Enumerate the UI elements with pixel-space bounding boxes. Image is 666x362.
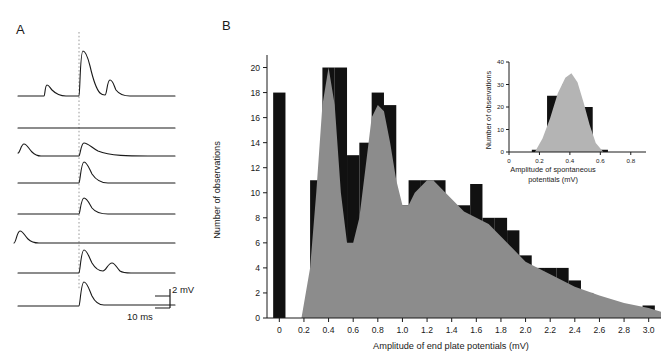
inset-x-tick-label: 0 — [507, 157, 511, 164]
trace-row-8 — [18, 282, 175, 306]
inset-y-tick-label: 30 — [497, 81, 504, 88]
x-tick-label: 2.2 — [544, 325, 556, 335]
x-tick-label: 1.2 — [421, 325, 433, 335]
x-tick-label: 0.8 — [372, 325, 384, 335]
trace-row-5 — [18, 198, 175, 214]
y-tick-label: 18 — [250, 88, 260, 98]
y-tick-label: 10 — [250, 188, 260, 198]
y-tick-label: 6 — [255, 238, 260, 248]
x-tick-label: 2.6 — [593, 325, 605, 335]
y-tick-label: 2 — [255, 288, 260, 298]
main-xaxis-label: Amplitude of end plate potentials (mV) — [373, 341, 529, 351]
inset-x-tick-label: 0.8 — [626, 157, 635, 164]
inset-y-tick-label: 0 — [501, 148, 505, 155]
inset-y-tick-label: 20 — [497, 103, 504, 110]
histogram-bar — [273, 93, 285, 318]
trace-row-1 — [18, 51, 175, 96]
x-tick-label: 3.0 — [643, 325, 655, 335]
scale-bar-voltage-label: 2 mV — [172, 284, 195, 295]
x-tick-label: 1.0 — [396, 325, 408, 335]
x-tick-label: 2.0 — [520, 325, 532, 335]
trace-row-4 — [18, 162, 175, 183]
x-tick-label: 0.6 — [347, 325, 359, 335]
y-tick-label: 12 — [250, 163, 260, 173]
y-tick-label: 4 — [255, 263, 260, 273]
x-tick-label: 1.8 — [495, 325, 507, 335]
trace-row-3 — [18, 143, 175, 156]
panel-a-traces: 2 mV 10 ms — [0, 18, 210, 348]
trace-row-7 — [18, 250, 175, 273]
y-tick-label: 0 — [255, 313, 260, 323]
main-yaxis-label: Number of observations — [212, 141, 222, 239]
x-tick-label: 1.4 — [446, 325, 458, 335]
x-tick-label: 1.6 — [470, 325, 482, 335]
trace-row-6 — [14, 231, 175, 243]
x-tick-label: 0.4 — [323, 325, 335, 335]
inset-yaxis-label: Number of observations — [484, 70, 493, 149]
x-tick-label: 2.8 — [618, 325, 630, 335]
inset-xaxis-label-line1: Amplitude of spontaneous — [510, 165, 596, 174]
inset-x-tick-label: 0.2 — [535, 157, 544, 164]
inset-histogram-plot: 01020304000.20.40.60.8 — [469, 48, 666, 184]
inset-xaxis-label-line2: potentials (mV) — [528, 175, 578, 184]
y-tick-label: 8 — [255, 213, 260, 223]
y-tick-label: 14 — [250, 138, 260, 148]
inset-x-tick-label: 0.6 — [596, 157, 605, 164]
x-tick-label: 0 — [277, 325, 282, 335]
figure-root: A B 2 mV 10 ms 0246810121416182000.20.40… — [0, 0, 666, 362]
panel-b-histogram: 0246810121416182000.20.40.60.81.01.21.41… — [206, 0, 666, 362]
x-tick-label: 2.4 — [569, 325, 581, 335]
y-tick-label: 16 — [250, 113, 260, 123]
inset-y-tick-label: 10 — [497, 126, 504, 133]
x-tick-label: 0.2 — [298, 325, 310, 335]
scale-bar-time-label: 10 ms — [127, 311, 153, 322]
inset-y-tick-label: 40 — [497, 58, 504, 65]
inset-x-tick-label: 0.4 — [566, 157, 575, 164]
y-tick-label: 20 — [250, 63, 260, 73]
